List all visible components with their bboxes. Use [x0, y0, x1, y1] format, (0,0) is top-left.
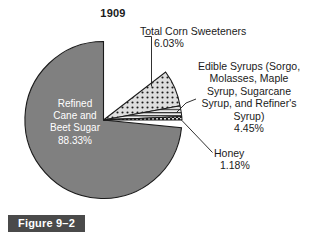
callout-label-edible-syrups: Edible Syrups (Sorgo, Molasses, Maple Sy… — [186, 60, 312, 134]
callout-label-line-1: Edible Syrups (Sorgo, — [198, 60, 300, 72]
slice-label-line-2: Cane and — [53, 110, 96, 121]
callout-label-corn-sweeteners: Total Corn Sweeteners 6.03% — [140, 25, 276, 50]
callout-label-line-2: Molasses, Maple — [210, 72, 289, 84]
callout-label-text: Honey — [214, 147, 244, 159]
slice-label-refined-sugar: Refined Cane and Beet Sugar 88.33% — [33, 98, 117, 147]
callout-label-percent: 4.45% — [234, 122, 264, 134]
slice-label-percent: 88.33% — [58, 135, 92, 146]
slice-label-line-3: Beet Sugar — [50, 122, 100, 133]
figure-caption: Figure 9–2 — [8, 215, 85, 232]
callout-label-percent: 6.03% — [140, 37, 276, 49]
figure-container: 1909 — [0, 0, 314, 235]
callout-label-honey: Honey 1.18% — [214, 147, 288, 172]
slice-label-line-1: Refined — [58, 98, 92, 109]
callout-label-line-5: Syrup) — [234, 110, 265, 122]
callout-label-percent: 1.18% — [214, 159, 288, 171]
callout-label-line-4: Syrup, and Refiner's — [202, 97, 297, 109]
callout-label-text: Total Corn Sweeteners — [140, 25, 246, 37]
callout-label-line-3: Syrup, Sugarcane — [207, 85, 291, 97]
